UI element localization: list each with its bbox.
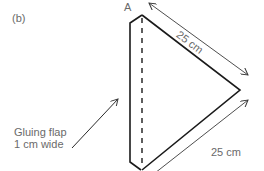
gluing-flap-annotation: Gluing flap 1 cm wide bbox=[14, 126, 67, 150]
gluing-flap bbox=[130, 15, 142, 170]
dimension-label-bottom: 25 cm bbox=[211, 146, 241, 158]
dimension-arrow-bottom bbox=[155, 100, 248, 171]
annotation-line-1: Gluing flap bbox=[14, 126, 67, 138]
dimension-arrow-top bbox=[149, 3, 248, 75]
annotation-line-2: 1 cm wide bbox=[14, 138, 67, 150]
flap-pointer-arrow bbox=[72, 99, 118, 148]
point-label-a: A bbox=[124, 1, 131, 13]
figure-label: (b) bbox=[12, 12, 25, 24]
diagram-canvas: (b) A 25 cm 25 cm Gluing flap 1 cm wide bbox=[0, 0, 264, 171]
